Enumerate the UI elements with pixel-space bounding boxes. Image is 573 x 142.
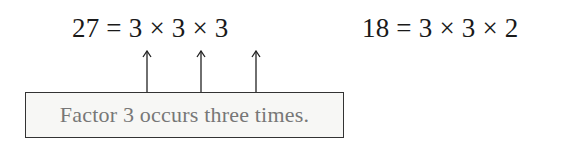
arrow-up-icon [196, 50, 206, 93]
arrow-up-icon [142, 50, 152, 93]
equation-27: 27 = 3 × 3 × 3 [72, 12, 228, 44]
annotation-box: Factor 3 occurs three times. [25, 92, 344, 138]
arrow-up-icon [251, 50, 261, 93]
equation-18: 18 = 3 × 3 × 2 [362, 12, 518, 44]
annotation-label: Factor 3 occurs three times. [60, 102, 309, 128]
